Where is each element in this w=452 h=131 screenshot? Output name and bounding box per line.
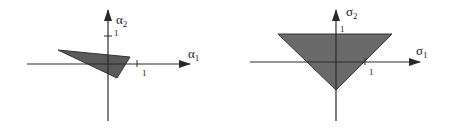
right-y-tick-label: 1: [340, 24, 345, 34]
diagram-canvas: α2 1 α1 1 σ2 1 σ1 1: [0, 0, 452, 131]
left-y-axis-label: α2: [116, 12, 127, 29]
left-y-tick-label: 1: [114, 28, 119, 38]
right-plot: σ2 1 σ1 1: [250, 4, 428, 121]
left-x-axis-label: α1: [188, 46, 199, 63]
left-x-tick-label: 1: [142, 68, 147, 78]
left-plot: α2 1 α1 1: [27, 10, 199, 121]
right-y-axis-label: σ2: [346, 4, 358, 21]
right-x-axis-label: σ1: [416, 43, 428, 60]
right-x-tick-label: 1: [369, 67, 374, 77]
